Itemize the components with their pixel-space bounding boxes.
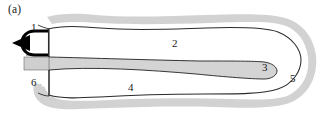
callout-label-6: 6	[31, 77, 37, 88]
anterior-tip-group	[12, 29, 49, 57]
callout-label-4: 4	[128, 82, 134, 93]
leader-line-1	[38, 25, 49, 29]
callout-label-1: 1	[31, 22, 37, 33]
panel-label: (a)	[8, 4, 21, 16]
callout-label-3: 3	[262, 62, 268, 73]
callout-label-5: 5	[290, 73, 296, 84]
figure-panel: (a) 1 2 3 4 5 6	[0, 0, 330, 119]
anatomical-diagram-svg	[0, 0, 330, 119]
tip-triangle-icon	[12, 35, 30, 51]
left-gray-stub-group	[24, 57, 49, 70]
left-gray-stub	[24, 57, 49, 70]
callout-label-2: 2	[172, 38, 178, 49]
